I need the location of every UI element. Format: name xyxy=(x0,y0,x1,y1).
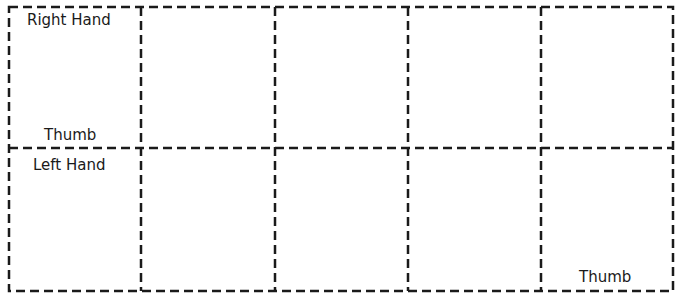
right-thumb-label: Thumb xyxy=(44,126,96,144)
left-thumb-label: Thumb xyxy=(579,268,631,286)
left-hand-label: Left Hand xyxy=(33,156,106,174)
finger-grid xyxy=(0,0,681,295)
right-hand-label: Right Hand xyxy=(27,11,111,29)
